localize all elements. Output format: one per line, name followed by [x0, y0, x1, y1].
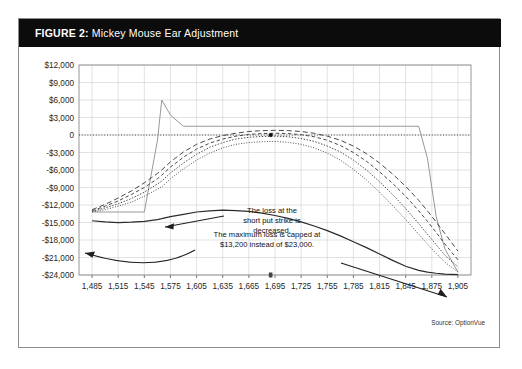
x-axis-tick-label: 1,695 — [265, 282, 286, 291]
annotation-short-put-strike-line2: short put strike is — [243, 216, 301, 225]
y-axis-tick-label: $3,000 — [49, 114, 74, 123]
annotation-arrow-max-loss-right — [341, 263, 447, 297]
source-credit: Source: OptionVue — [431, 319, 485, 327]
chart-plot-area: $12,000$9,000$6,000$3,0000-$3,000-$6,000… — [19, 47, 501, 349]
figure-header-bar: FIGURE 2: Mickey Mouse Ear Adjustment — [19, 19, 501, 47]
current-price-dot — [269, 133, 273, 137]
annotation-max-loss-line2: $13,200 instead of $23,000. — [220, 240, 314, 249]
y-axis-tick-label: 0 — [69, 131, 74, 140]
y-axis-tick-label: -$21,000 — [42, 254, 75, 263]
y-axis-tick-label: $9,000 — [49, 79, 74, 88]
y-axis-tick-label: -$9,000 — [46, 184, 74, 193]
y-axis-tick-label: -$12,000 — [42, 201, 75, 210]
y-axis-tick-label: -$15,000 — [42, 219, 75, 228]
y-axis-labels: $12,000$9,000$6,000$3,0000-$3,000-$6,000… — [42, 61, 75, 280]
y-axis-tick-label: -$3,000 — [46, 149, 74, 158]
figure-container: FIGURE 2: Mickey Mouse Ear Adjustment $1… — [18, 18, 500, 348]
y-axis-tick-label: $6,000 — [49, 96, 74, 105]
x-axis-tick-label: 1,575 — [160, 282, 181, 291]
annotation-arrow-short-put — [165, 216, 224, 227]
x-axis-labels: 1,4851,5151,5451,5751,6051,6351,6651,695… — [82, 282, 469, 291]
x-axis-tick-label: 1,815 — [369, 282, 390, 291]
x-axis-tick-label: 1,545 — [134, 282, 155, 291]
x-axis-tick-label: 1,635 — [212, 282, 233, 291]
annotation-arrowhead-max-loss-left — [85, 252, 95, 258]
annotation-short-put-strike-line1: The loss at the — [247, 206, 297, 215]
x-axis-tick-label: 1,485 — [82, 282, 103, 291]
current-price-axis-marker — [269, 273, 273, 278]
x-axis-ticks — [92, 275, 458, 278]
x-axis-tick-label: 1,755 — [317, 282, 338, 291]
x-axis-tick-label: 1,605 — [186, 282, 207, 291]
x-axis-tick-label: 1,515 — [108, 282, 129, 291]
payoff-chart-svg: $12,000$9,000$6,000$3,0000-$3,000-$6,000… — [19, 47, 501, 349]
figure-title: Mickey Mouse Ear Adjustment — [92, 27, 239, 39]
annotation-max-loss-line1: The maximum loss is capped at — [214, 230, 322, 239]
y-axis-tick-label: -$6,000 — [46, 166, 74, 175]
annotation-arrow-max-loss-left — [85, 250, 195, 263]
x-axis-tick-label: 1,785 — [343, 282, 364, 291]
figure-number: FIGURE 2: — [35, 27, 89, 39]
y-axis-tick-label: -$18,000 — [42, 236, 75, 245]
x-axis-tick-label: 1,665 — [239, 282, 260, 291]
figure-header-text: FIGURE 2: Mickey Mouse Ear Adjustment — [19, 27, 238, 39]
x-axis-tick-label: 1,725 — [291, 282, 312, 291]
y-axis-tick-label: -$24,000 — [42, 271, 75, 280]
y-axis-tick-label: $12,000 — [44, 61, 74, 70]
x-axis-tick-label: 1,905 — [448, 282, 469, 291]
